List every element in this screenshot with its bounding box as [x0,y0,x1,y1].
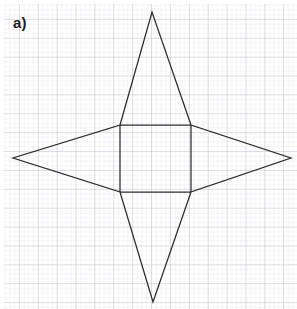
panel-label: a) [13,15,27,30]
star-outline-path [13,12,291,302]
figure-panel: a) [0,0,297,309]
star-figure [0,0,297,309]
